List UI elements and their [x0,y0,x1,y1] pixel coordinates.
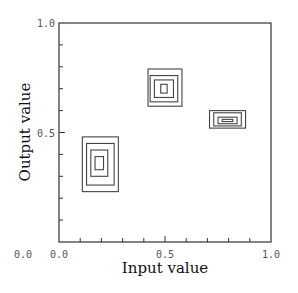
y-tick-label: 1.0 [37,18,55,29]
plot-frame [59,23,271,242]
y-axis-label: Output value [16,82,34,181]
contour-level [91,150,108,176]
contour-level [154,80,173,98]
cluster-middle [148,69,182,106]
x-tick-label: 0.0 [50,249,68,260]
cluster-right [210,111,246,129]
contour-chart: 0.00.51.00.00.51.0 Input value Output va… [0,0,298,293]
x-tick-label: 1.0 [262,249,280,260]
contour-level [148,69,182,106]
y-tick-label: 0.5 [37,128,55,139]
y-tick-label: 0.0 [14,249,32,260]
contour-rectangles [82,69,245,192]
contour-level [218,117,237,124]
contour-level [95,157,103,170]
plot-border [59,23,271,242]
contour-level [82,137,118,192]
cluster-lower-left [82,137,118,192]
tick-labels: 0.00.51.00.00.51.0 [14,18,280,260]
contour-level [222,119,233,121]
contour-level [161,84,167,93]
x-axis-label: Input value [122,259,209,277]
